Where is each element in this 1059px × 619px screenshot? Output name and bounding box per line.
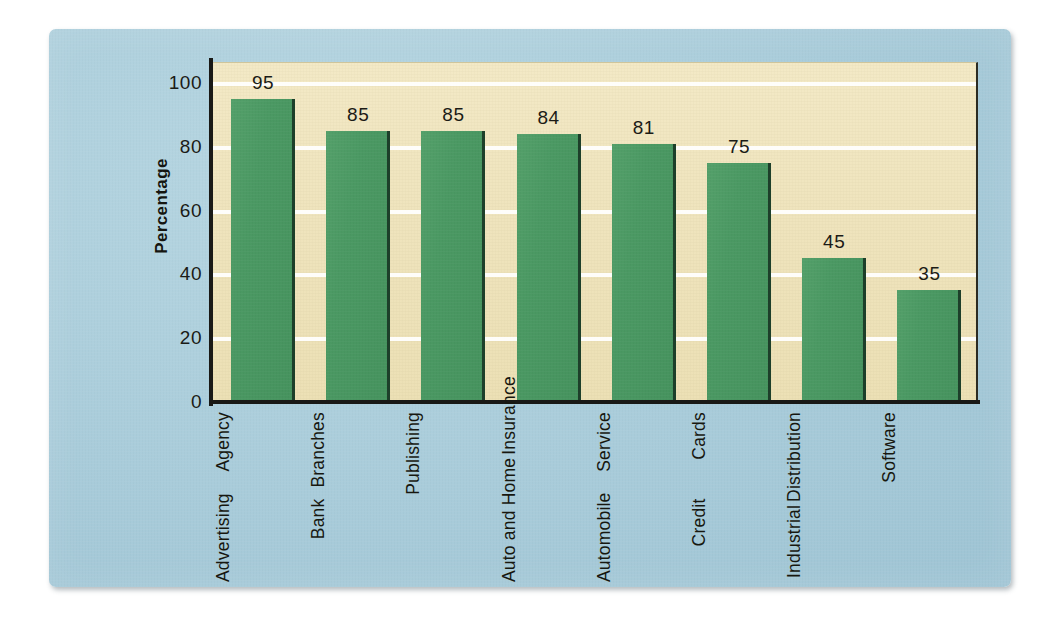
y-axis-ticks: 100806040200 xyxy=(150,0,202,619)
y-tick-label: 80 xyxy=(156,137,202,156)
y-tick-label: 100 xyxy=(156,73,202,92)
x-category-label: BankBranches xyxy=(308,412,408,582)
y-tick-label: 60 xyxy=(156,201,202,220)
y-tick-label: 20 xyxy=(156,328,202,347)
x-category-label: CreditCards xyxy=(689,412,789,582)
x-category-line: Automobile xyxy=(594,492,614,582)
x-category-line: Software xyxy=(879,412,899,483)
bar-texture xyxy=(517,134,578,402)
bar xyxy=(897,290,961,402)
x-category-line: Service xyxy=(594,412,614,472)
y-tick-label: 40 xyxy=(156,264,202,283)
x-category-label: Publishing xyxy=(403,412,503,582)
bar xyxy=(231,99,295,402)
bar xyxy=(802,258,866,402)
bar xyxy=(707,163,771,402)
bar xyxy=(612,144,676,402)
bar-texture xyxy=(231,99,292,402)
bar-value-label: 35 xyxy=(889,263,969,285)
gridline xyxy=(213,82,976,86)
bar xyxy=(421,131,485,402)
bar-texture xyxy=(802,258,863,402)
x-category-label: Auto and HomeInsurance xyxy=(499,412,599,582)
x-category-line: Distribution xyxy=(784,412,804,502)
x-category-line: Industrial xyxy=(784,505,804,578)
x-category-label: IndustrialDistribution xyxy=(784,412,884,582)
x-axis-line xyxy=(209,400,980,404)
bar-value-label: 95 xyxy=(223,72,303,94)
bar-value-label: 45 xyxy=(794,231,874,253)
bar-texture xyxy=(897,290,958,402)
x-category-line: Insurance xyxy=(499,376,519,455)
x-category-label: AdvertisingAgency xyxy=(213,412,313,582)
x-category-line: Credit xyxy=(689,499,709,547)
x-category-line: Branches xyxy=(308,412,328,488)
x-category-label: Software xyxy=(879,412,979,582)
bar-texture xyxy=(612,144,673,402)
bar-texture xyxy=(421,131,482,402)
bar-texture xyxy=(707,163,768,402)
bar-value-label: 84 xyxy=(509,107,589,129)
y-axis-line xyxy=(209,58,213,406)
bar-value-label: 85 xyxy=(413,104,493,126)
y-tick-label: 0 xyxy=(156,392,202,411)
bar-value-label: 81 xyxy=(604,117,684,139)
x-category-line: Auto and Home xyxy=(499,458,519,582)
x-category-line: Agency xyxy=(213,412,233,472)
x-category-label: AutomobileService xyxy=(594,412,694,582)
bar-value-label: 85 xyxy=(318,104,398,126)
x-category-line: Bank xyxy=(308,499,328,540)
x-category-line: Publishing xyxy=(403,412,423,495)
bar-texture xyxy=(326,131,387,402)
bar xyxy=(517,134,581,402)
bar xyxy=(326,131,390,402)
chart-figure: Percentage 100806040200 9585858481754535… xyxy=(0,0,1059,619)
x-category-line: Cards xyxy=(689,412,709,460)
bar-value-label: 75 xyxy=(699,136,779,158)
x-category-line: Advertising xyxy=(213,493,233,582)
